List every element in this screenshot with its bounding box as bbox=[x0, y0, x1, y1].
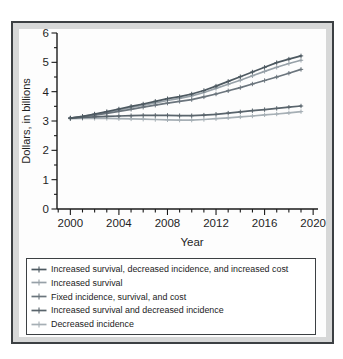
y-tick-label: 0 bbox=[43, 203, 49, 215]
legend-item-label: Fixed incidence, survival, and cost bbox=[51, 291, 186, 303]
legend: Increased survival, decreased incidence,… bbox=[26, 258, 316, 335]
series-line bbox=[70, 69, 301, 118]
figure-frame: 2000200420082012201620200123456 Dollars,… bbox=[11, 21, 334, 344]
series-markers bbox=[68, 58, 303, 120]
legend-line-marker-icon bbox=[31, 320, 47, 329]
x-tick-label: 2016 bbox=[252, 217, 278, 229]
legend-item: Increased survival bbox=[31, 277, 311, 289]
x-axis-title: Year bbox=[180, 236, 203, 248]
y-tick-label: 4 bbox=[43, 86, 50, 98]
figure-panel: 2000200420082012201620200123456 Dollars,… bbox=[19, 29, 326, 337]
chart-canvas: 2000200420082012201620200123456 bbox=[19, 29, 326, 255]
legend-line-marker-icon bbox=[31, 278, 47, 287]
x-tick-label: 2020 bbox=[300, 217, 326, 229]
series-markers bbox=[68, 54, 303, 121]
y-tick-label: 3 bbox=[43, 115, 49, 127]
legend-item: Fixed incidence, survival, and cost bbox=[31, 291, 311, 303]
legend-item-label: Increased survival bbox=[51, 277, 123, 289]
legend-line-marker-icon bbox=[31, 265, 47, 274]
x-tick-label: 2004 bbox=[106, 217, 132, 229]
legend-line-marker-icon bbox=[31, 292, 47, 301]
y-tick-label: 1 bbox=[43, 174, 49, 186]
legend-item-label: Increased survival and decreased inciden… bbox=[51, 304, 224, 316]
x-tick-label: 2000 bbox=[58, 217, 84, 229]
legend-item-label: Decreased incidence bbox=[51, 318, 134, 330]
legend-item-label: Increased survival, decreased incidence,… bbox=[51, 263, 288, 275]
y-axis-title: Dollars, in billions bbox=[20, 78, 32, 164]
legend-item: Decreased incidence bbox=[31, 318, 311, 330]
legend-line-marker-icon bbox=[31, 306, 47, 315]
x-tick-label: 2012 bbox=[203, 217, 229, 229]
y-tick-label: 6 bbox=[43, 27, 49, 39]
y-tick-label: 2 bbox=[43, 144, 49, 156]
legend-item: Increased survival, decreased incidence,… bbox=[31, 263, 311, 275]
legend-item: Increased survival and decreased inciden… bbox=[31, 304, 311, 316]
y-tick-label: 5 bbox=[43, 56, 49, 68]
x-tick-label: 2008 bbox=[155, 217, 181, 229]
